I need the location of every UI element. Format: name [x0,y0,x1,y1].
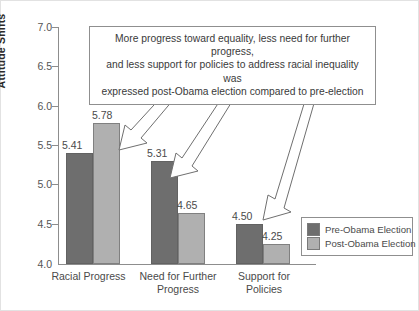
x-category-support-for-policies: Support for Policies [225,270,303,295]
x-category-line: Policies [225,283,303,296]
y-tick-label: 5.5 [18,140,52,150]
bar-value-label: 4.50 [232,210,252,222]
y-tick-label: 6.5 [18,61,52,71]
annotation-line-2: and less support for policies to address… [97,58,368,84]
y-tick-5-5: 5.5 [1,140,52,150]
bar-value-label: 5.31 [147,147,167,159]
bar-post-support-for-policies [263,244,290,264]
legend-item-pre-obama-election: Pre-Obama Election [307,223,407,236]
y-tick-label: 7.0 [18,22,52,32]
bar-value-label: 5.41 [62,139,82,151]
y-tick-label: 5.0 [18,179,52,189]
y-tick-4-5: 4.5 [1,219,52,229]
x-category-line: Need for Further [132,270,224,283]
annotation-textbox: More progress toward equality, less need… [89,26,376,105]
legend-label: Pre-Obama Election [325,224,411,235]
y-tick-5-0: 5.0 [1,179,52,189]
bar-value-label: 4.25 [262,230,282,242]
x-category-need-for-further-progress: Need for Further Progress [132,270,224,295]
annotation-line-3: expressed post-Obama election compared t… [97,85,368,98]
y-tick-label: 4.0 [18,259,52,269]
y-tick-7-0: 7.0 [1,22,52,32]
chart-figure: Attitude Shifts 7.0 6.5 6.0 5.5 5.0 4.5 … [0,0,419,311]
bar-post-need-for-further-progress [178,213,205,264]
x-axis-line [58,264,316,265]
legend-swatch-icon [307,237,320,250]
y-tick-6-5: 6.5 [1,61,52,71]
legend-label: Post-Obama Election [325,238,416,249]
y-tick-4-0: 4.0 [1,259,52,269]
bar-pre-need-for-further-progress [151,161,178,264]
y-tick-6-0: 6.0 [1,101,52,111]
x-category-line: Progress [132,283,224,296]
y-tick-label: 4.5 [18,219,52,229]
bar-value-label: 5.78 [92,109,112,121]
x-category-line: Support for [225,270,303,283]
x-category-racial-progress: Racial Progress [46,270,131,283]
bar-pre-support-for-policies [236,224,263,264]
y-tick-label: 6.0 [18,101,52,111]
x-category-line: Racial Progress [46,270,131,283]
bar-pre-racial-progress [66,153,93,264]
bar-value-label: 4.65 [177,199,197,211]
bar-post-racial-progress [93,123,120,264]
annotation-line-1: More progress toward equality, less need… [97,32,368,58]
legend-item-post-obama-election: Post-Obama Election [307,237,407,250]
chart-legend: Pre-Obama Election Post-Obama Election [301,217,413,256]
legend-swatch-icon [307,223,320,236]
